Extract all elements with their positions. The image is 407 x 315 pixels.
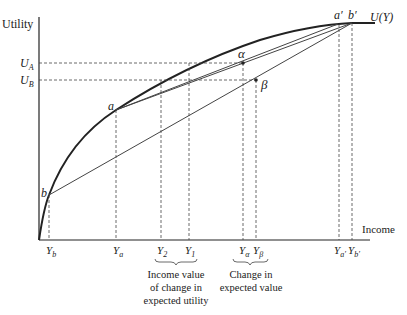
point-a-label: a (108, 99, 114, 113)
tick-y2: Y2 (157, 244, 167, 259)
tick-yalpha: Yα (239, 244, 250, 259)
income-value-annotation-line2: of change in (150, 282, 203, 293)
point-b-label: b (41, 186, 47, 200)
brace-income-value (155, 259, 197, 265)
utility-diagram: Utility Income U(Y) UA UB a b a′ b′ α β … (0, 0, 407, 315)
point-b-prime-label: b′ (348, 8, 357, 22)
brace-change-expected (233, 259, 268, 265)
ua-label: UA (20, 56, 34, 72)
y-axis-label: Utility (2, 17, 33, 31)
income-value-annotation-line3: expected utility (143, 295, 209, 306)
change-expected-annotation-line2: expected value (220, 282, 283, 293)
x-axis-label: Income (362, 223, 395, 235)
tick-ybprime: Yb′ (348, 244, 360, 259)
curve-label: U(Y) (370, 10, 393, 24)
ub-label: UB (20, 73, 34, 89)
chord-a-b-prime (116, 23, 352, 110)
tick-yaprime: Ya′ (334, 244, 346, 259)
tick-ybeta: Yβ (253, 244, 263, 259)
chord-b-b-prime (49, 23, 352, 195)
point-a-prime-label: a′ (334, 8, 343, 22)
tick-y1: Y1 (185, 244, 195, 259)
tick-ya: Ya (113, 244, 123, 259)
tick-yb: Yb (46, 244, 56, 259)
alpha-point (241, 61, 245, 65)
change-expected-annotation-line1: Change in (230, 269, 274, 280)
beta-point (254, 78, 258, 82)
income-value-annotation-line1: Income value (148, 269, 205, 280)
point-beta-label: β (260, 77, 268, 92)
point-alpha-label: α (238, 46, 246, 61)
chord-a-a-prime (116, 24, 338, 110)
utility-curve (39, 23, 375, 240)
